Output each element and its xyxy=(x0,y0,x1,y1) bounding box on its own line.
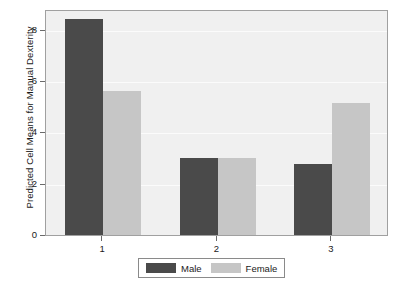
y-tick-mark xyxy=(40,235,45,236)
bar-male-2 xyxy=(180,158,218,235)
legend-item-female: Female xyxy=(211,263,278,274)
bar-chart: Predicted Cell Means for Manual Dexterit… xyxy=(0,0,403,291)
y-tick-mark xyxy=(40,81,45,82)
y-tick-mark xyxy=(40,132,45,133)
x-tick-mark xyxy=(216,236,217,241)
x-tick-mark xyxy=(101,236,102,241)
x-tick-label: 1 xyxy=(90,243,114,254)
y-tick-label: 2 xyxy=(32,178,37,189)
legend-item-male: Male xyxy=(146,263,202,274)
bar-female-2 xyxy=(218,158,256,235)
y-axis-title: Predicted Cell Means for Manual Dexterit… xyxy=(24,3,35,233)
y-tick-mark xyxy=(40,30,45,31)
chart-legend: Male Female xyxy=(138,258,285,278)
y-tick-label: 8 xyxy=(32,24,37,35)
legend-label-male: Male xyxy=(181,263,202,274)
x-tick-mark xyxy=(330,236,331,241)
y-tick-label: 4 xyxy=(32,126,37,137)
bar-female-1 xyxy=(103,91,141,235)
x-tick-label: 3 xyxy=(319,243,343,254)
bar-male-3 xyxy=(294,164,332,235)
bar-male-1 xyxy=(65,19,103,235)
legend-label-female: Female xyxy=(246,263,278,274)
x-tick-label: 2 xyxy=(205,243,229,254)
y-tick-mark xyxy=(40,184,45,185)
legend-swatch-male-icon xyxy=(146,263,176,273)
legend-swatch-female-icon xyxy=(211,263,241,273)
y-tick-label: 0 xyxy=(32,229,37,240)
bar-female-3 xyxy=(332,103,370,235)
plot-area xyxy=(45,10,388,236)
y-tick-label: 6 xyxy=(32,75,37,86)
